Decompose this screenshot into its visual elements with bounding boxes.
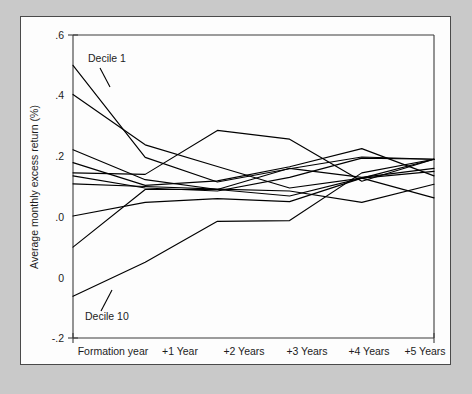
figure-root: .6 .4 .2 .0 0 -.2 Average monthly excess… (0, 0, 472, 394)
chart-panel (20, 16, 451, 365)
